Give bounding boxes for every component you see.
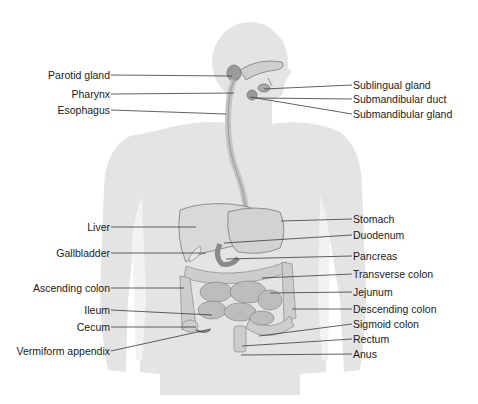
- label-duodenum: Duodenum: [353, 229, 404, 241]
- digestive-system-diagram: [0, 0, 478, 404]
- label-jejunum: Jejunum: [353, 286, 393, 298]
- label-submandibular-duct: Submandibular duct: [353, 93, 446, 105]
- label-ascending-colon: Ascending colon: [33, 282, 110, 294]
- label-parotid-gland: Parotid gland: [48, 69, 110, 81]
- label-liver: Liver: [87, 221, 110, 233]
- label-rectum: Rectum: [353, 333, 389, 345]
- leader-line-parotid-gland: [111, 75, 232, 76]
- label-ileum: Ileum: [84, 304, 110, 316]
- submandibular-gland-shape: [247, 90, 257, 100]
- label-anus: Anus: [353, 348, 377, 360]
- parotid-gland-shape: [227, 65, 241, 81]
- label-transverse-colon: Transverse colon: [353, 268, 433, 280]
- label-pancreas: Pancreas: [353, 250, 397, 262]
- label-sublingual-gland: Sublingual gland: [353, 79, 431, 91]
- label-gallbladder: Gallbladder: [56, 247, 110, 259]
- leader-line-esophagus: [111, 110, 226, 114]
- label-esophagus: Esophagus: [57, 104, 110, 116]
- label-vermiform-appendix: Vermiform appendix: [17, 345, 110, 357]
- label-descending-colon: Descending colon: [353, 303, 436, 315]
- label-pharynx: Pharynx: [71, 88, 110, 100]
- label-cecum: Cecum: [77, 321, 110, 333]
- sublingual-gland-shape: [258, 84, 270, 92]
- label-sigmoid-colon: Sigmoid colon: [353, 318, 419, 330]
- label-stomach: Stomach: [353, 213, 394, 225]
- leader-line-pharynx: [111, 93, 234, 94]
- label-submandibular-gland: Submandibular gland: [353, 108, 452, 120]
- stomach-shape: [228, 208, 284, 253]
